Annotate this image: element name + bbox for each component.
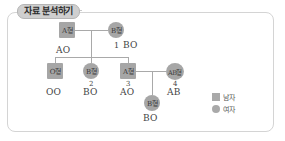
gen2-spouse-genotype: AB (167, 88, 181, 97)
legend-label-male: 남자 (223, 92, 235, 102)
gen2-child1-node: O형 (47, 63, 63, 79)
gen2-child3-blood-type: A형 (123, 66, 133, 76)
legend-row-male: 남자 (212, 92, 235, 102)
gen1-mother-blood-type: B형 (111, 25, 121, 35)
legend-label-female: 여자 (223, 104, 235, 114)
gen2-child1-genotype: OO (46, 88, 61, 97)
gen2-spouse-node: AB형 (166, 63, 184, 80)
gen1-father-node: A형 (59, 22, 75, 38)
gen1-mother-number: 1 (114, 42, 119, 49)
gen1-father-genotype: AO (56, 46, 70, 55)
gen3-child-blood-type: B형 (147, 98, 157, 108)
gen2-child1-blood-type: O형 (50, 66, 61, 76)
gen2-spouse-blood-type: AB형 (168, 67, 182, 77)
gen3-child-genotype: BO (143, 114, 158, 123)
legend: 남자 여자 (212, 92, 235, 116)
gen3-child-node: B형 (144, 95, 160, 111)
descent-line-gen1 (91, 30, 92, 63)
descent-line-gen2 (152, 71, 153, 95)
gen2-child2-genotype: BO (83, 88, 98, 97)
gen2-child2-blood-type: B형 (86, 66, 96, 76)
marriage-line-gen2 (136, 71, 166, 72)
gen2-child3-genotype: AO (120, 88, 134, 97)
gen2-child2-node: B형 (83, 63, 99, 79)
gen1-father-blood-type: A형 (62, 25, 72, 35)
legend-row-female: 여자 (212, 104, 235, 114)
gen1-mother-node: B형 (108, 22, 124, 38)
section-title-badge: 자료 분석하기 (17, 4, 80, 19)
square-icon (212, 93, 220, 101)
circle-icon (212, 105, 220, 113)
gen1-mother-genotype: BO (123, 41, 138, 50)
gen2-child3-node: A형 (120, 63, 136, 79)
sibling-line-gen2 (55, 57, 128, 58)
